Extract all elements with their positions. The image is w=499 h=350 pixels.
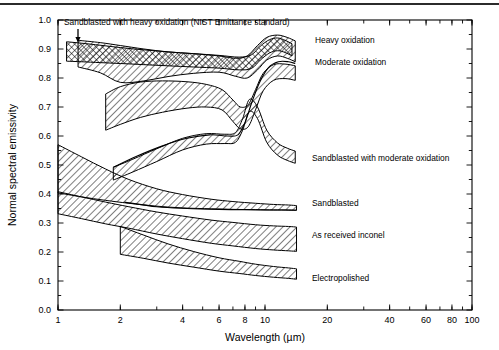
x-tick-label: 10 bbox=[260, 315, 270, 325]
emissivity-chart: 1246810204060801000.00.10.20.30.40.50.60… bbox=[0, 0, 499, 350]
y-tick-label: 0.6 bbox=[38, 131, 51, 141]
x-tick-label: 4 bbox=[180, 315, 185, 325]
y-tick-label: 0.3 bbox=[38, 218, 51, 228]
annotation-label-5: As received inconel bbox=[312, 230, 385, 240]
y-tick-label: 0.5 bbox=[38, 160, 51, 170]
y-tick-label: 0.1 bbox=[38, 276, 51, 286]
y-tick-label: 0.8 bbox=[38, 73, 51, 83]
y-tick-label: 0.2 bbox=[38, 247, 51, 257]
annotation-label-1: Heavy oxidation bbox=[315, 35, 375, 45]
figure-root: 1246810204060801000.00.10.20.30.40.50.60… bbox=[0, 0, 499, 350]
x-tick-label: 6 bbox=[217, 315, 222, 325]
annotation-label-2: Moderate oxidation bbox=[315, 57, 387, 67]
y-tick-label: 0.4 bbox=[38, 189, 51, 199]
x-tick-label: 60 bbox=[421, 315, 431, 325]
x-axis-title: Wavelength (µm) bbox=[225, 331, 305, 343]
x-tick-label: 40 bbox=[385, 315, 395, 325]
x-tick-label: 20 bbox=[322, 315, 332, 325]
x-tick-label: 2 bbox=[118, 315, 123, 325]
y-tick-label: 1.0 bbox=[38, 15, 51, 25]
annotation-label-0: Sandblasted with heavy oxidation (NIST E… bbox=[64, 17, 290, 27]
annotation-label-3: Sandblasted with moderate oxidation bbox=[312, 153, 450, 163]
x-tick-label: 1 bbox=[55, 315, 60, 325]
y-tick-label: 0.0 bbox=[38, 305, 51, 315]
annotation-label-4: Sandblasted bbox=[312, 198, 359, 208]
chart-svg: 1246810204060801000.00.10.20.30.40.50.60… bbox=[0, 0, 499, 350]
y-tick-label: 0.9 bbox=[38, 44, 51, 54]
y-tick-label: 0.7 bbox=[38, 102, 51, 112]
x-tick-label: 8 bbox=[242, 315, 247, 325]
y-axis-title: Normal spectral emissivity bbox=[6, 103, 18, 226]
x-tick-label: 80 bbox=[447, 315, 457, 325]
annotation-label-6: Electropolished bbox=[312, 273, 370, 283]
x-tick-label: 100 bbox=[464, 315, 479, 325]
